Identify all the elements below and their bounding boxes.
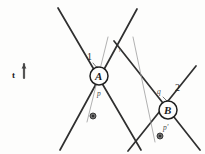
label-p: p	[97, 90, 101, 98]
diagram-canvas: A B 1 2 p p' q r t	[0, 0, 205, 154]
point-marker-center-icon	[159, 135, 161, 137]
node-label-a: A	[95, 71, 102, 82]
arrow-head-icon	[22, 64, 27, 69]
node-label-b: B	[164, 105, 171, 116]
point-marker-center-icon	[92, 115, 94, 117]
label-p-prime: p'	[163, 124, 168, 132]
label-q: q	[157, 88, 161, 96]
line-figure-svg	[0, 0, 205, 154]
label-t: t	[12, 71, 15, 80]
label-r: r	[119, 47, 121, 53]
label-line-2: 2	[175, 83, 180, 93]
label-line-1: 1	[87, 52, 92, 62]
